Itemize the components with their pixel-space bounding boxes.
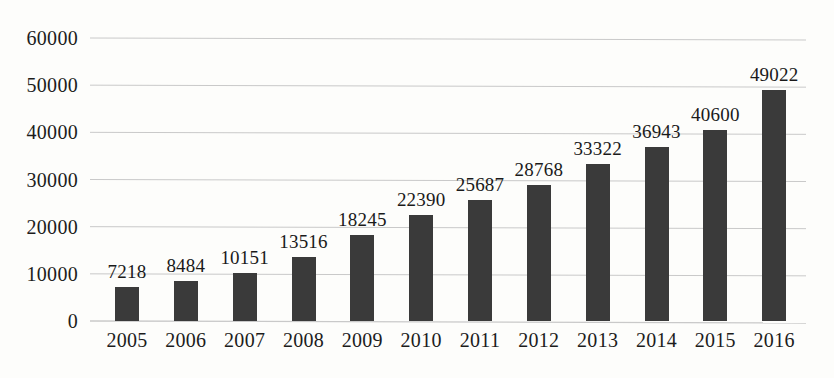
bar-value-label: 33322 [573, 138, 622, 160]
bar-value-label: 7218 [108, 261, 147, 283]
plot-area: 7218200584842006101512007135162008182452… [0, 0, 834, 378]
bar-2009[interactable] [350, 235, 374, 321]
bar-group: 10151 [216, 273, 274, 321]
x-tick-label: 2006 [157, 329, 215, 352]
x-tick-label: 2010 [392, 329, 450, 352]
x-tick-label: 2013 [569, 329, 627, 352]
x-tick-label: 2015 [686, 329, 744, 352]
bar-group: 25687 [451, 200, 509, 321]
bar-value-label: 25687 [456, 174, 505, 196]
bar-2014[interactable] [645, 147, 669, 321]
bar-2013[interactable] [586, 164, 610, 321]
x-tick-label: 2011 [451, 329, 509, 352]
bar-group: 40600 [686, 130, 744, 321]
bar-group: 36943 [628, 147, 686, 321]
bar-value-label: 13516 [279, 231, 328, 253]
x-tick-label: 2016 [745, 329, 803, 352]
bar-2010[interactable] [409, 215, 433, 321]
bar-value-label: 28768 [515, 159, 564, 181]
bar-2012[interactable] [527, 185, 551, 321]
bar-value-label: 18245 [338, 209, 387, 231]
x-tick-label: 2008 [275, 329, 333, 352]
bar-group: 33322 [569, 164, 627, 321]
x-tick-label: 2009 [333, 329, 391, 352]
x-tick-label: 2007 [216, 329, 274, 352]
bar-value-label: 10151 [220, 247, 269, 269]
bar-value-label: 36943 [632, 121, 681, 143]
bar-2006[interactable] [174, 281, 198, 321]
bar-2007[interactable] [233, 273, 257, 321]
bar-2015[interactable] [703, 130, 727, 321]
bar-group: 13516 [275, 257, 333, 321]
x-tick-label: 2014 [628, 329, 686, 352]
bar-group: 49022 [745, 90, 803, 321]
bar-value-label: 22390 [397, 189, 446, 211]
x-tick-label: 2012 [510, 329, 568, 352]
bar-group: 18245 [333, 235, 391, 321]
bar-2011[interactable] [468, 200, 492, 321]
bar-2005[interactable] [115, 287, 139, 321]
bar-chart: 0100002000030000400005000060000 72182005… [0, 0, 834, 378]
bar-value-label: 49022 [750, 64, 799, 86]
bar-value-label: 8484 [166, 255, 205, 277]
x-tick-label: 2005 [98, 329, 156, 352]
bar-group: 22390 [392, 215, 450, 321]
bar-group: 28768 [510, 185, 568, 321]
bar-group: 7218 [98, 287, 156, 321]
bar-2016[interactable] [762, 90, 786, 321]
bar-2008[interactable] [292, 257, 316, 321]
bar-value-label: 40600 [691, 104, 740, 126]
bar-group: 8484 [157, 281, 215, 321]
